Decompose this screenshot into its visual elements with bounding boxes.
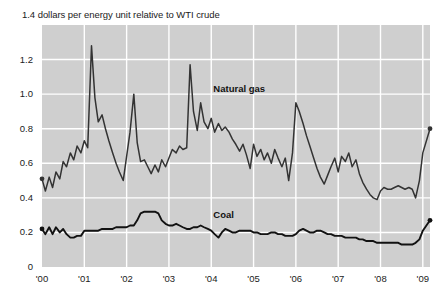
- x-axis-tick-label: '09: [408, 273, 438, 284]
- y-axis-tick-label: 0.4: [5, 192, 33, 203]
- series-label-natural-gas: Natural gas: [213, 83, 265, 94]
- x-axis-tick-label: '02: [112, 273, 142, 284]
- series-end-marker-natural-gas: [428, 126, 433, 131]
- y-axis-tick-label: 0.2: [5, 226, 33, 237]
- y-axis-tick-label: 0.6: [5, 157, 33, 168]
- y-axis-tick-label: 0.8: [5, 123, 33, 134]
- series-start-marker-coal: [40, 227, 45, 232]
- x-axis-tick-label: '03: [154, 273, 184, 284]
- x-axis-tick-label: '07: [323, 273, 353, 284]
- series-end-marker-coal: [428, 218, 433, 223]
- x-axis-tick-label: '06: [281, 273, 311, 284]
- x-axis-tick-label: '04: [196, 273, 226, 284]
- x-axis-tick-label: '08: [365, 273, 395, 284]
- x-axis-tick-label: '01: [69, 273, 99, 284]
- chart-figure: 1.4 dollars per energy unit relative to …: [0, 0, 443, 301]
- y-axis-tick-label: 1.0: [5, 88, 33, 99]
- y-axis-tick-label: 0: [5, 261, 33, 272]
- x-axis-tick-label: '00: [27, 273, 57, 284]
- plot-area: [0, 0, 443, 301]
- series-label-coal: Coal: [213, 209, 234, 220]
- y-axis-tick-label: 1.2: [5, 54, 33, 65]
- series-start-marker-natural-gas: [40, 176, 45, 181]
- x-axis-tick-label: '05: [239, 273, 269, 284]
